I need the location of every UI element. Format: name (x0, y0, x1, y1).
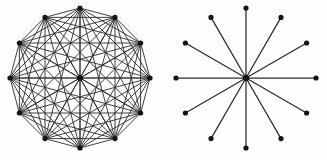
graph-spoke (246, 43, 307, 78)
graph-vertex (183, 110, 188, 115)
graph-hub-vertex (77, 75, 83, 81)
graph-vertex (112, 136, 117, 141)
graph-vertex (147, 75, 152, 80)
graph-spoke (246, 17, 281, 78)
graph-vertex (7, 75, 12, 80)
graph-vertex (138, 40, 143, 45)
graph-vertex (17, 110, 22, 115)
graph-spoke (246, 78, 281, 139)
graph-vertex (183, 40, 188, 45)
graph-diagram-svg (0, 0, 327, 160)
graph-vertex (243, 145, 248, 150)
star-graph-k1-12-group (173, 5, 318, 150)
graph-vertex (243, 5, 248, 10)
graph-vertex (304, 110, 309, 115)
graph-vertex (77, 5, 82, 10)
graph-vertex (138, 110, 143, 115)
graph-vertex (42, 136, 47, 141)
graph-vertex (313, 75, 318, 80)
figure-canvas (0, 0, 327, 160)
complete-graph-k13-group (7, 5, 152, 150)
graph-spoke (211, 78, 246, 139)
graph-spoke (246, 78, 307, 113)
graph-spoke (185, 43, 246, 78)
graph-vertex (278, 136, 283, 141)
graph-vertex (112, 15, 117, 20)
graph-vertex (304, 40, 309, 45)
graph-spoke (211, 17, 246, 78)
graph-vertex (278, 15, 283, 20)
graph-vertex (17, 40, 22, 45)
graph-vertex (208, 15, 213, 20)
graph-spoke (185, 78, 246, 113)
graph-vertex (42, 15, 47, 20)
graph-hub-vertex (243, 75, 249, 81)
graph-vertex (77, 145, 82, 150)
graph-vertex (208, 136, 213, 141)
graph-vertex (173, 75, 178, 80)
